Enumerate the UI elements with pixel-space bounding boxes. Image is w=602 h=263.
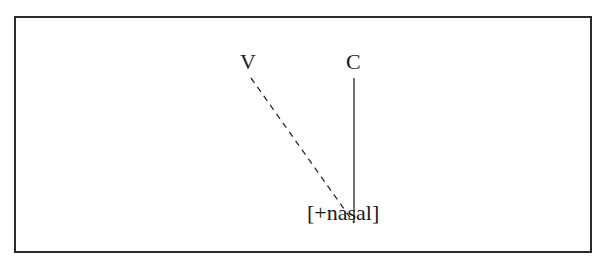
vowel-node-label: V (240, 51, 256, 73)
consonant-node-label: C (346, 51, 361, 73)
nasal-feature-label: [+nasal] (307, 202, 379, 224)
association-lines (0, 0, 602, 263)
